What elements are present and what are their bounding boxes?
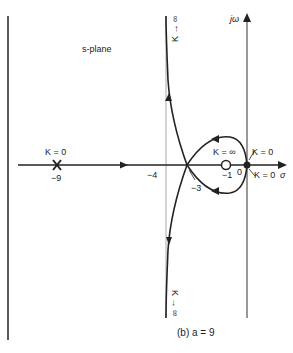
origin-value-label: 0 <box>237 167 242 177</box>
asymptote-top-label: K → ∞ <box>170 16 180 42</box>
asymptote-bottom-label: K → ∞ <box>170 290 180 316</box>
asymptote-value-label: −4 <box>147 170 157 180</box>
origin-gain-bottom-label: K = 0 <box>254 170 275 180</box>
zero-value-label: −1 <box>222 170 232 180</box>
root-locus-diagram: s-plane jω σ K = 0 −9 −4 −3 K = ∞ −1 0 K… <box>0 0 293 353</box>
zero-gain-label: K = ∞ <box>213 147 236 157</box>
pole-9-gain-label: K = 0 <box>45 147 66 157</box>
pole-9-value-label: −9 <box>51 173 61 183</box>
zero-marker-icon <box>222 161 231 170</box>
branch-lower-arrow-icon <box>166 237 172 245</box>
loop-upper-arrow-icon <box>211 135 219 143</box>
locus-direction-arrow-icon <box>120 162 128 169</box>
loop-lower-arrow-icon <box>211 187 219 195</box>
imaginary-axis-arrow-icon <box>243 13 251 22</box>
origin-gain-top-label: K = 0 <box>252 147 273 157</box>
origin-pole-marker-icon <box>244 162 251 169</box>
breakaway-value-label: −3 <box>191 183 201 193</box>
real-axis-arrow-icon <box>278 161 287 169</box>
figure-caption: (b) a = 9 <box>177 327 215 338</box>
imag-axis-label: jω <box>229 14 239 24</box>
real-axis-label: σ <box>280 170 286 180</box>
s-plane-label: s-plane <box>82 44 112 54</box>
